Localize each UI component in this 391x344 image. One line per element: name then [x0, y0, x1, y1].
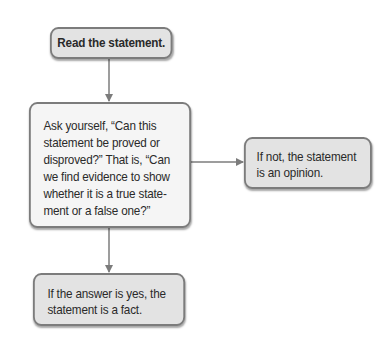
node-text-line: statement be proved or — [43, 134, 180, 151]
node-read-statement: Read the statement. — [50, 27, 172, 59]
node-text-line: Ask yourself, “Can this — [43, 117, 180, 134]
node-text-line: statement is a fact. — [47, 302, 176, 318]
node-text-line: is an opinion. — [257, 165, 363, 181]
node-text-line: we find evidence to show — [43, 168, 180, 185]
node-text-line: disproved?” That is, “Can — [43, 151, 180, 168]
node-text-line: whether it is a true state- — [43, 185, 180, 202]
node-text-line: If not, the statement — [257, 149, 363, 165]
node-text-line: If the answer is yes, the — [47, 286, 176, 302]
node-text: Read the statement. — [57, 35, 165, 51]
node-opinion: If not, the statement is an opinion. — [244, 137, 372, 189]
node-fact: If the answer is yes, the statement is a… — [33, 273, 185, 326]
node-text-line: ment or a false one?” — [43, 202, 180, 219]
node-ask-yourself: Ask yourself, “Can this statement be pro… — [29, 102, 191, 228]
